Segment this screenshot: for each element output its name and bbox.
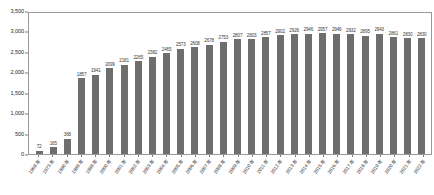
x-tick-slot: 1968 年 bbox=[31, 155, 45, 195]
bar-value-label: 2573 bbox=[176, 43, 186, 48]
y-tick-label: 2,000 bbox=[11, 70, 25, 76]
bar[interactable]: 2830 bbox=[418, 38, 425, 154]
x-tick-mark bbox=[209, 155, 210, 157]
x-tick-slot: 2008 年 bbox=[216, 155, 230, 195]
x-tick-slot: 2006 年 bbox=[188, 155, 202, 195]
y-tick-label: 500 bbox=[15, 132, 24, 138]
x-tick-mark bbox=[380, 155, 381, 157]
x-tick-mark bbox=[81, 155, 82, 157]
bar[interactable]: 2857 bbox=[262, 37, 269, 154]
bar-slot: 2957 bbox=[315, 13, 329, 154]
x-tick-slot: 2019 年 bbox=[373, 155, 387, 195]
bar-value-label: 2830 bbox=[417, 33, 427, 38]
x-tick-slot: 1973 年 bbox=[45, 155, 59, 195]
bar-value-label: 165 bbox=[50, 142, 57, 147]
x-tick-slot: 2013 年 bbox=[288, 155, 302, 195]
bar[interactable]: 2608 bbox=[191, 47, 198, 154]
bar[interactable]: 1941 bbox=[92, 75, 99, 154]
x-tick-slot: 2015 年 bbox=[316, 155, 330, 195]
bar-value-label: 2902 bbox=[275, 30, 285, 35]
x-tick-mark bbox=[337, 155, 338, 157]
bar-slot: 2265 bbox=[131, 13, 145, 154]
bar-value-label: 2807 bbox=[233, 34, 243, 39]
x-tick-slot: 2003 年 bbox=[145, 155, 159, 195]
x-tick-slot: 2021 年 bbox=[402, 155, 416, 195]
bar[interactable]: 2943 bbox=[376, 34, 383, 154]
bar-value-label: 2857 bbox=[261, 32, 271, 37]
bar[interactable]: 2932 bbox=[347, 34, 354, 154]
bar-slot: 2932 bbox=[344, 13, 358, 154]
bar[interactable]: 2753 bbox=[220, 42, 227, 154]
bar-value-label: 2678 bbox=[204, 39, 214, 44]
bar-chart: 3,5003,0002,5002,0001,5001,0005000 72165… bbox=[0, 0, 434, 195]
bar[interactable]: 368 bbox=[64, 139, 71, 154]
bar[interactable]: 2902 bbox=[277, 35, 284, 154]
bar-slot: 2807 bbox=[230, 13, 244, 154]
bar-slot: 72 bbox=[32, 13, 46, 154]
bar-value-label: 2753 bbox=[219, 36, 229, 41]
bar-slot: 2382 bbox=[145, 13, 159, 154]
y-tick-label: 1,500 bbox=[11, 91, 25, 97]
bar-value-label: 2830 bbox=[403, 33, 413, 38]
bar[interactable]: 2678 bbox=[206, 45, 213, 154]
bar-slot: 2902 bbox=[273, 13, 287, 154]
x-tick-slot: 2018 年 bbox=[359, 155, 373, 195]
x-tick-label: 2005 年 bbox=[171, 159, 184, 175]
bar[interactable]: 2181 bbox=[121, 65, 128, 154]
bar-slot: 2857 bbox=[259, 13, 273, 154]
bar[interactable]: 2573 bbox=[177, 49, 184, 154]
x-tick-label: 2012 年 bbox=[271, 159, 284, 175]
bar-slot: 2926 bbox=[287, 13, 301, 154]
bar-slot: 2181 bbox=[117, 13, 131, 154]
bar-value-label: 72 bbox=[37, 145, 42, 150]
bar[interactable]: 2946 bbox=[333, 34, 340, 154]
x-tick-label: 2000 年 bbox=[100, 159, 113, 175]
bar[interactable]: 165 bbox=[50, 147, 57, 154]
bar[interactable]: 2099 bbox=[106, 68, 113, 154]
bar-slot: 2099 bbox=[103, 13, 117, 154]
x-tick-slot: 2012 年 bbox=[273, 155, 287, 195]
x-tick-slot: 2020 年 bbox=[387, 155, 401, 195]
x-tick-mark bbox=[124, 155, 125, 157]
bar[interactable]: 2861 bbox=[390, 37, 397, 154]
bar[interactable]: 2807 bbox=[234, 39, 241, 154]
bar[interactable]: 2803 bbox=[248, 39, 255, 154]
x-tick-mark bbox=[95, 155, 96, 157]
x-tick-label: 2007 年 bbox=[200, 159, 213, 175]
x-tick-label: 1980 年 bbox=[57, 159, 70, 175]
bar[interactable]: 2895 bbox=[362, 36, 369, 154]
bar[interactable]: 2946 bbox=[305, 34, 312, 154]
bar-value-label: 1941 bbox=[91, 69, 101, 74]
y-tick-label: 1,000 bbox=[11, 111, 25, 117]
bar-slot: 2943 bbox=[372, 13, 386, 154]
x-tick-slot: 1989 年 bbox=[74, 155, 88, 195]
x-tick-mark bbox=[409, 155, 410, 157]
x-tick-slot: 2022 年 bbox=[416, 155, 430, 195]
bar-slot: 2573 bbox=[174, 13, 188, 154]
x-tick-slot: 1980 年 bbox=[60, 155, 74, 195]
bar-value-label: 2465 bbox=[162, 48, 172, 53]
bar[interactable]: 2382 bbox=[149, 57, 156, 154]
bar-slot: 1857 bbox=[75, 13, 89, 154]
bar[interactable]: 2465 bbox=[163, 53, 170, 154]
bar[interactable]: 2265 bbox=[135, 61, 142, 154]
x-tick-slot: 2004 年 bbox=[159, 155, 173, 195]
bar[interactable]: 2830 bbox=[404, 38, 411, 154]
bar[interactable]: 1857 bbox=[78, 78, 85, 154]
x-tick-mark bbox=[352, 155, 353, 157]
bar[interactable]: 2957 bbox=[319, 33, 326, 154]
x-tick-label: 2020 年 bbox=[385, 159, 398, 175]
x-axis: 1968 年1973 年1980 年1989 年1998 年2000 年2001… bbox=[28, 155, 432, 195]
y-tick-label: 3,000 bbox=[11, 30, 25, 36]
x-tick-mark bbox=[252, 155, 253, 157]
bar-value-label: 2608 bbox=[190, 42, 200, 47]
bar[interactable]: 72 bbox=[36, 151, 43, 154]
x-tick-slot: 2014 年 bbox=[302, 155, 316, 195]
x-tick-mark bbox=[152, 155, 153, 157]
x-tick-label: 2014 年 bbox=[299, 159, 312, 175]
x-tick-slot: 2007 年 bbox=[202, 155, 216, 195]
bar[interactable]: 2926 bbox=[291, 34, 298, 154]
x-tick-label: 2011 年 bbox=[257, 159, 270, 175]
bar-slot: 2608 bbox=[188, 13, 202, 154]
x-tick-mark bbox=[195, 155, 196, 157]
